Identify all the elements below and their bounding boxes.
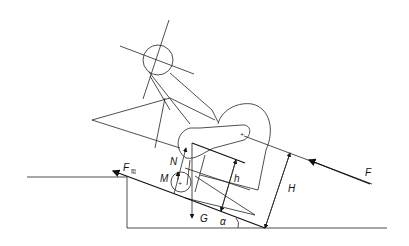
resist-force-label: F — [123, 162, 130, 173]
angle-arc — [236, 218, 239, 228]
normal-force-label: N — [170, 156, 178, 167]
thigh-segment — [178, 125, 250, 158]
H-label: H — [288, 183, 296, 194]
normal-force-arrow — [174, 148, 186, 194]
alpha-label: α — [220, 216, 226, 227]
wheelchair-incline-diagram: + + F 阻 N M G h H F α — [0, 0, 409, 246]
svg-text:+: + — [240, 131, 244, 137]
seat-top-line — [192, 143, 245, 163]
seat-wedge — [92, 98, 215, 148]
push-force-label: F — [365, 167, 372, 178]
front-wheel: + — [171, 172, 191, 192]
torso-lines — [149, 72, 218, 148]
resist-force-subscript: 阻 — [131, 168, 136, 175]
leg-lines — [185, 155, 255, 215]
push-force-arrow — [309, 160, 370, 184]
svg-text:+: + — [178, 180, 182, 186]
gravity-label: G — [200, 213, 208, 224]
h-label: h — [234, 173, 240, 184]
moment-label: M — [160, 173, 169, 184]
